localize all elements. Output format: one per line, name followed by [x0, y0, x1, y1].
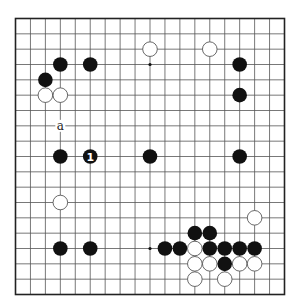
black-stone — [202, 241, 217, 256]
white-stone — [247, 211, 262, 226]
move-number-label: 1 — [86, 151, 94, 164]
white-stone — [188, 272, 203, 287]
black-stone — [53, 241, 68, 256]
black-stone — [188, 226, 203, 241]
white-stone — [188, 257, 203, 272]
black-stone — [53, 57, 68, 72]
black-stone — [232, 241, 247, 256]
black-stone — [143, 149, 158, 164]
white-stone — [188, 241, 203, 256]
black-stone — [83, 241, 98, 256]
white-stone — [247, 257, 262, 272]
star-point — [148, 63, 151, 66]
black-stone — [173, 241, 188, 256]
black-stone — [83, 57, 98, 72]
markers-layer: a — [55, 119, 65, 133]
white-stone — [232, 257, 247, 272]
star-point — [148, 247, 151, 250]
black-stone — [232, 57, 247, 72]
white-stone — [38, 88, 53, 103]
go-board: 1 a — [0, 0, 298, 307]
white-stone — [217, 272, 232, 287]
black-stone — [232, 88, 247, 103]
black-stone — [217, 241, 232, 256]
white-stone — [53, 195, 68, 210]
black-stone — [202, 226, 217, 241]
black-stone — [247, 241, 262, 256]
white-stone — [202, 42, 217, 57]
black-stone — [38, 73, 53, 88]
white-stone — [53, 88, 68, 103]
white-stone — [143, 42, 158, 57]
black-stone — [217, 257, 232, 272]
black-stone — [158, 241, 173, 256]
marker-label-a: a — [57, 119, 64, 133]
black-stone — [232, 149, 247, 164]
black-stone — [53, 149, 68, 164]
white-stone — [202, 257, 217, 272]
